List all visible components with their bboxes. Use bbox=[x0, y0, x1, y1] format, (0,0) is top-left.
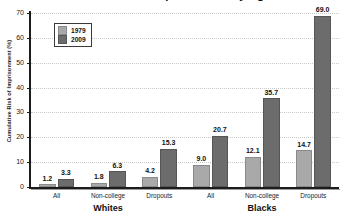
y-tick-mark bbox=[27, 38, 31, 39]
legend-item-1979[interactable]: 1979 bbox=[58, 26, 86, 35]
x-category-label: Dropouts bbox=[280, 192, 347, 199]
y-tick-mark bbox=[27, 63, 31, 64]
bar-1979-all-whites[interactable] bbox=[39, 184, 56, 187]
gridline bbox=[31, 112, 339, 113]
bar-value-label: 6.3 bbox=[103, 162, 132, 169]
legend-label-1979: 1979 bbox=[71, 27, 86, 34]
bar-1979-all-blacks[interactable] bbox=[193, 165, 210, 187]
bar-2009-all-blacks[interactable] bbox=[212, 136, 229, 187]
bar-2009-dropouts-blacks[interactable] bbox=[314, 16, 331, 188]
y-tick-label: 0 bbox=[2, 183, 24, 190]
bar-1979-dropouts-whites[interactable] bbox=[142, 177, 159, 187]
bar-value-label: 3.3 bbox=[52, 169, 81, 176]
y-tick-label: 10 bbox=[2, 158, 24, 165]
gridline bbox=[31, 88, 339, 89]
legend-swatch-1979-icon bbox=[58, 26, 67, 35]
y-tick-mark bbox=[27, 187, 31, 188]
y-tick-mark bbox=[27, 137, 31, 138]
y-tick-mark bbox=[27, 88, 31, 89]
x-axis-shadow bbox=[31, 189, 340, 190]
bar-1979-non-college-whites[interactable] bbox=[91, 183, 108, 187]
chart-title: Cumulative Risk of Imprisonment by Age 3… bbox=[0, 0, 347, 1]
bar-value-label: 15.3 bbox=[154, 139, 183, 146]
x-group-label-blacks: Blacks bbox=[185, 203, 339, 213]
y-tick-mark bbox=[27, 13, 31, 14]
bar-2009-dropouts-whites[interactable] bbox=[160, 149, 177, 187]
bar-2009-non-college-whites[interactable] bbox=[109, 171, 126, 187]
legend-label-2009: 2009 bbox=[71, 36, 86, 43]
y-tick-label: 70 bbox=[2, 9, 24, 16]
legend-item-2009[interactable]: 2009 bbox=[58, 35, 86, 44]
bar-value-label: 35.7 bbox=[257, 89, 286, 96]
y-tick-label: 20 bbox=[2, 133, 24, 140]
y-tick-label: 30 bbox=[2, 108, 24, 115]
y-tick-label: 40 bbox=[2, 84, 24, 91]
bar-1979-dropouts-blacks[interactable] bbox=[296, 150, 313, 187]
gridline bbox=[31, 13, 339, 14]
legend-swatch-2009-icon bbox=[58, 35, 67, 44]
x-group-label-whites: Whites bbox=[31, 203, 185, 213]
bar-2009-non-college-blacks[interactable] bbox=[263, 98, 280, 187]
legend[interactable]: 1979 2009 bbox=[54, 23, 92, 47]
y-tick-mark bbox=[27, 162, 31, 163]
bar-1979-non-college-blacks[interactable] bbox=[245, 157, 262, 187]
bar-2009-all-whites[interactable] bbox=[58, 179, 75, 187]
y-tick-label: 60 bbox=[2, 34, 24, 41]
gridline bbox=[31, 63, 339, 64]
y-tick-mark bbox=[27, 112, 31, 113]
gridline bbox=[31, 137, 339, 138]
y-tick-label: 50 bbox=[2, 59, 24, 66]
bar-value-label: 20.7 bbox=[206, 126, 235, 133]
gridline bbox=[31, 162, 339, 163]
bar-chart: Cumulative Risk of Imprisonment by Age 3… bbox=[0, 0, 347, 220]
bar-value-label: 69.0 bbox=[308, 6, 337, 13]
